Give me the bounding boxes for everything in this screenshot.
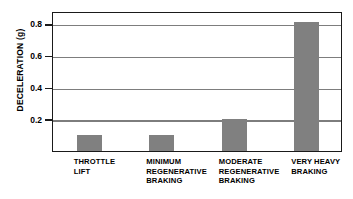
category-label-line: BRAKING bbox=[146, 176, 207, 186]
tick-label-0.8: 0.8 bbox=[16, 19, 42, 29]
category-label-line: MINIMUM bbox=[146, 157, 207, 167]
category-label-line: MODERATE bbox=[219, 157, 280, 167]
category-label: VERY HEAVYBRAKING bbox=[291, 157, 340, 176]
tick-mark-0.2 bbox=[45, 119, 52, 121]
category-label-line: THROTTLE bbox=[74, 157, 115, 167]
plot-area bbox=[52, 12, 342, 152]
tick-mark-0.8 bbox=[45, 24, 52, 26]
tick-mark-0.4 bbox=[45, 88, 52, 90]
tick-label-0.6: 0.6 bbox=[16, 51, 42, 61]
deceleration-bar-chart: DECELERATION (g) 0.20.40.60.8 THROTTLELI… bbox=[0, 0, 353, 199]
tick-label-0.2: 0.2 bbox=[16, 115, 42, 125]
category-label-line: LIFT bbox=[74, 167, 115, 177]
category-label-line: BRAKING bbox=[291, 167, 340, 177]
tick-label-0.4: 0.4 bbox=[16, 83, 42, 93]
category-label: THROTTLELIFT bbox=[74, 157, 115, 176]
category-label-line: REGENERATIVE bbox=[219, 167, 280, 177]
bar bbox=[222, 119, 247, 151]
bar bbox=[77, 135, 102, 151]
category-label-line: BRAKING bbox=[219, 176, 280, 186]
tick-mark-0.6 bbox=[45, 56, 52, 58]
category-label: MINIMUMREGENERATIVEBRAKING bbox=[146, 157, 207, 186]
bar bbox=[149, 135, 174, 151]
bar bbox=[294, 22, 319, 151]
category-label-line: VERY HEAVY bbox=[291, 157, 340, 167]
category-label: MODERATEREGENERATIVEBRAKING bbox=[219, 157, 280, 186]
category-label-line: REGENERATIVE bbox=[146, 167, 207, 177]
